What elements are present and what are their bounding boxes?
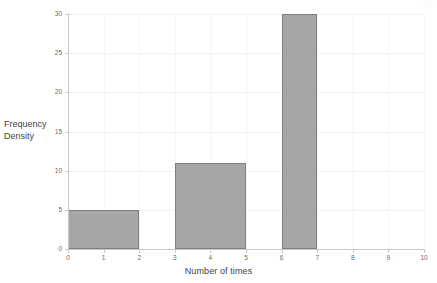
gridline-vertical	[353, 14, 354, 249]
y-tick-mark	[65, 132, 68, 133]
x-tick-mark	[388, 250, 389, 253]
x-tick-label: 9	[380, 255, 396, 262]
plot-area	[68, 14, 424, 249]
y-tick-mark	[65, 210, 68, 211]
bar	[175, 163, 246, 249]
x-tick-label: 5	[238, 255, 254, 262]
histogram-chart: 051015202530 012345678910 Frequency Dens…	[0, 0, 437, 283]
y-tick-mark	[65, 171, 68, 172]
y-tick-label: 10	[46, 168, 62, 175]
x-tick-mark	[246, 250, 247, 253]
bar	[282, 14, 318, 249]
x-tick-mark	[282, 250, 283, 253]
x-tick-label: 4	[202, 255, 218, 262]
y-tick-label: 5	[46, 207, 62, 214]
x-tick-mark	[424, 250, 425, 253]
y-tick-label: 30	[46, 11, 62, 18]
y-tick-label: 25	[46, 50, 62, 57]
x-tick-label: 2	[131, 255, 147, 262]
x-tick-mark	[104, 250, 105, 253]
gridline-vertical	[139, 14, 140, 249]
y-axis-title-line-1: Frequency	[4, 118, 62, 130]
y-axis-title-line-2: Density	[4, 130, 62, 142]
y-tick-label: 20	[46, 89, 62, 96]
x-tick-mark	[175, 250, 176, 253]
x-tick-mark	[353, 250, 354, 253]
gridline-vertical	[317, 14, 318, 249]
x-tick-label: 10	[416, 255, 432, 262]
x-tick-label: 7	[309, 255, 325, 262]
x-tick-label: 6	[274, 255, 290, 262]
y-tick-label: 0	[46, 246, 62, 253]
x-tick-mark	[68, 250, 69, 253]
x-tick-mark	[210, 250, 211, 253]
x-tick-label: 1	[96, 255, 112, 262]
y-tick-mark	[65, 92, 68, 93]
y-tick-mark	[65, 53, 68, 54]
y-tick-mark	[65, 14, 68, 15]
y-axis-line	[68, 13, 69, 250]
x-tick-label: 3	[167, 255, 183, 262]
gridline-vertical	[388, 14, 389, 249]
x-tick-mark	[139, 250, 140, 253]
x-axis-title: Number of times	[0, 266, 437, 276]
gridline-vertical	[246, 14, 247, 249]
gridline-vertical	[424, 14, 425, 249]
corner-artifact	[423, 1, 433, 8]
x-tick-label: 8	[345, 255, 361, 262]
x-tick-mark	[317, 250, 318, 253]
bar	[68, 210, 139, 249]
x-tick-label: 0	[60, 255, 76, 262]
y-axis-title: Frequency Density	[4, 118, 62, 142]
